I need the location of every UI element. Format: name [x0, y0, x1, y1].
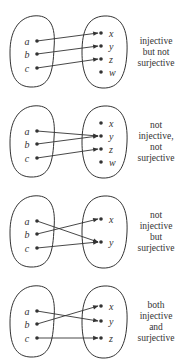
domain-label-a: a [25, 36, 30, 47]
domain-label-b: b [25, 139, 30, 150]
caption-line: both [130, 300, 182, 311]
panel-3: abcxy [10, 196, 127, 268]
domain-label-c: c [25, 153, 30, 164]
codomain-label-y: y [108, 41, 114, 52]
caption-line: not [130, 142, 182, 153]
panel-caption-3: notinjectivebutsurjective [130, 210, 182, 254]
caption-line: surjective [130, 58, 182, 69]
codomain-label-y: y [108, 237, 114, 248]
domain-label-c: c [25, 243, 30, 254]
codomain-point-y [99, 134, 103, 138]
domain-set-outline [10, 16, 54, 87]
codomain-label-w: w [109, 157, 116, 168]
domain-label-a: a [25, 126, 30, 137]
panel-4: abcxyz [10, 286, 127, 358]
caption-line: surjective [130, 153, 182, 164]
caption-line: injective, [130, 131, 182, 142]
arrow-b-to-y [37, 136, 98, 144]
codomain-label-y: y [108, 316, 114, 327]
panel-1: abcxyzw [10, 16, 127, 88]
domain-label-b: b [25, 49, 30, 60]
arrow-c-to-z [37, 59, 98, 68]
domain-label-c: c [25, 63, 30, 74]
codomain-point-y [99, 319, 103, 323]
codomain-point-x [99, 121, 103, 125]
codomain-point-x [99, 31, 103, 35]
codomain-point-z [99, 57, 103, 61]
codomain-label-x: x [108, 28, 114, 39]
caption-line: surjective [130, 243, 182, 254]
domain-set-outline [10, 106, 54, 177]
codomain-point-w [99, 70, 103, 74]
panel-caption-2: notinjective,notsurjective [130, 120, 182, 164]
arrow-a-to-x [37, 33, 98, 41]
caption-line: injective [130, 221, 182, 232]
codomain-label-z: z [108, 144, 113, 155]
caption-line: surjective [130, 333, 182, 344]
codomain-point-y [99, 240, 103, 244]
codomain-label-z: z [108, 333, 113, 344]
codomain-point-z [99, 336, 103, 340]
codomain-label-x: x [108, 301, 114, 312]
caption-line: not [130, 120, 182, 131]
domain-set-outline [10, 286, 54, 357]
domain-label-a: a [25, 216, 30, 227]
caption-line: not [130, 210, 182, 221]
codomain-point-x [99, 217, 103, 221]
arrow-b-to-x [37, 306, 98, 324]
arrow-c-to-z [37, 149, 98, 158]
codomain-set-outline [82, 16, 127, 88]
domain-label-c: c [25, 333, 30, 344]
domain-label-b: b [25, 229, 30, 240]
caption-line: injective [130, 36, 182, 47]
arrow-a-to-y [37, 131, 98, 136]
domain-label-b: b [25, 319, 30, 330]
codomain-point-w [99, 160, 103, 164]
caption-line: but [130, 232, 182, 243]
codomain-point-y [99, 44, 103, 48]
codomain-set-outline [82, 286, 127, 358]
codomain-label-x: x [108, 214, 114, 225]
panel-caption-1: injectivebut notsurjective [130, 36, 182, 69]
arrow-c-to-y [37, 242, 98, 248]
arrow-a-to-y [37, 311, 98, 321]
codomain-label-w: w [109, 67, 116, 78]
codomain-point-x [99, 304, 103, 308]
panel-caption-4: bothinjectiveandsurjective [130, 300, 182, 344]
codomain-label-x: x [108, 118, 114, 129]
arrow-b-to-y [37, 46, 98, 54]
codomain-set-outline [82, 106, 127, 178]
caption-line: but not [130, 47, 182, 58]
caption-line: and [130, 322, 182, 333]
codomain-point-z [99, 147, 103, 151]
panel-2: abcxyzw [10, 106, 127, 178]
caption-line: injective [130, 311, 182, 322]
codomain-set-outline [82, 196, 127, 268]
codomain-label-z: z [108, 54, 113, 65]
domain-label-a: a [25, 306, 30, 317]
codomain-label-y: y [108, 131, 114, 142]
